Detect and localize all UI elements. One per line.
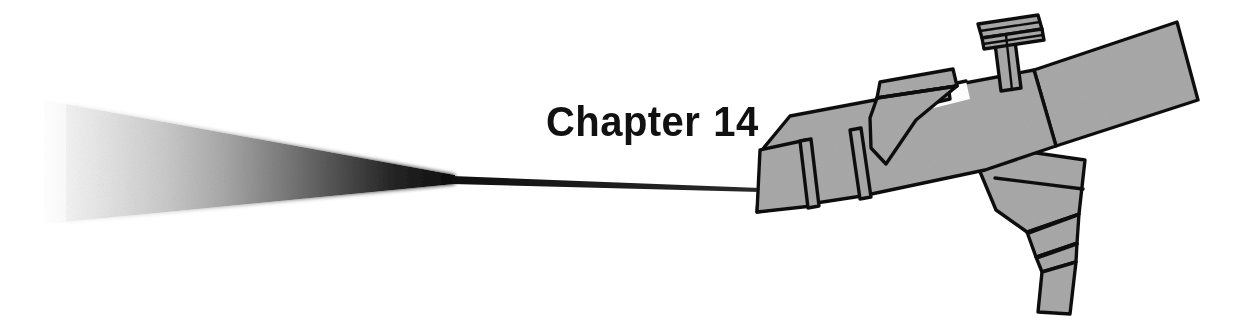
hose-stem (1038, 262, 1076, 314)
spray-gun-illustration (0, 0, 1250, 317)
chapter-label: Chapter (546, 97, 700, 145)
spray-plume (30, 92, 455, 234)
handle (1034, 22, 1198, 146)
page-title: Chapter14 (546, 99, 759, 143)
spray-jet-line (452, 176, 760, 192)
chapter-opener-page: Chapter14 (0, 0, 1250, 317)
spray-gun (757, 15, 1198, 314)
chapter-number: 14 (713, 97, 758, 145)
